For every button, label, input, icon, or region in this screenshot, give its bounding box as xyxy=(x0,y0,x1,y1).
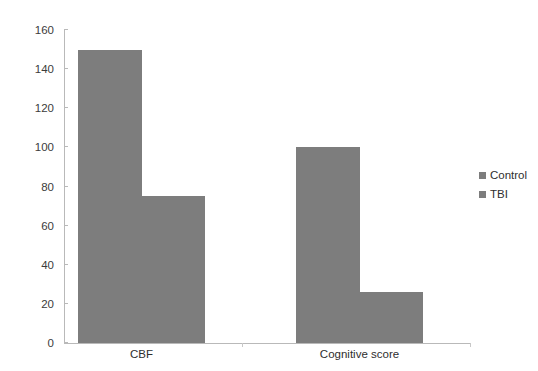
x-axis-line xyxy=(64,343,470,344)
bar xyxy=(142,196,206,343)
legend-swatch-icon xyxy=(479,172,486,179)
x-axis-category-label: CBF xyxy=(130,348,153,360)
chart-legend: ControlTBI xyxy=(479,166,537,204)
y-axis-tick-label: 100 xyxy=(35,139,54,155)
y-axis-tick-label: 0 xyxy=(48,335,54,351)
y-axis-tick-label: 120 xyxy=(35,100,54,116)
x-axis-category-label: Cognitive score xyxy=(320,348,399,360)
plot-area xyxy=(64,30,470,343)
x-axis-tick-mark xyxy=(470,343,471,347)
legend-label: TBI xyxy=(490,188,508,201)
legend-item: Control xyxy=(479,166,537,185)
bar-chart: 020406080100120140160 CBFCognitive score… xyxy=(0,0,538,371)
y-axis-tick-label: 60 xyxy=(41,218,54,234)
legend-swatch-icon xyxy=(479,191,486,198)
bar xyxy=(296,147,360,343)
legend-item: TBI xyxy=(479,185,537,204)
y-axis-tick-label: 20 xyxy=(41,296,54,312)
legend-label: Control xyxy=(490,169,527,182)
y-axis-tick-label: 160 xyxy=(35,22,54,38)
y-axis-tick-label: 40 xyxy=(41,257,54,273)
x-axis-tick-mark xyxy=(242,343,243,347)
y-axis-tick-label: 80 xyxy=(41,179,54,195)
y-axis-tick-label: 140 xyxy=(35,61,54,77)
bar xyxy=(78,50,142,343)
bar xyxy=(360,292,424,343)
